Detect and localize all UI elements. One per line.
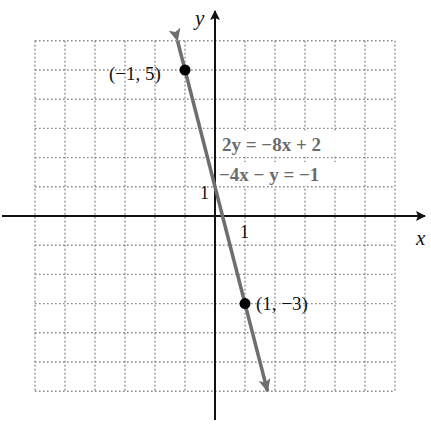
coordinate-plane-chart: y x 1 1 (−1, 5) (1, −3) 2y = −8x + 2 −4x…	[0, 0, 431, 424]
equation-2-label: −4x − y = −1	[219, 164, 319, 185]
point-1-neg3	[240, 298, 251, 309]
x-axis-label: x	[415, 226, 426, 250]
equation-1-label: 2y = −8x + 2	[222, 134, 321, 155]
y-tick-label-1: 1	[200, 183, 209, 203]
point-label-neg1-5: (−1, 5)	[109, 63, 161, 85]
x-tick-label-1: 1	[240, 222, 249, 242]
y-axis-label: y	[193, 6, 205, 30]
point-label-1-neg3: (1, −3)	[256, 293, 308, 315]
point-neg1-5	[180, 65, 191, 76]
